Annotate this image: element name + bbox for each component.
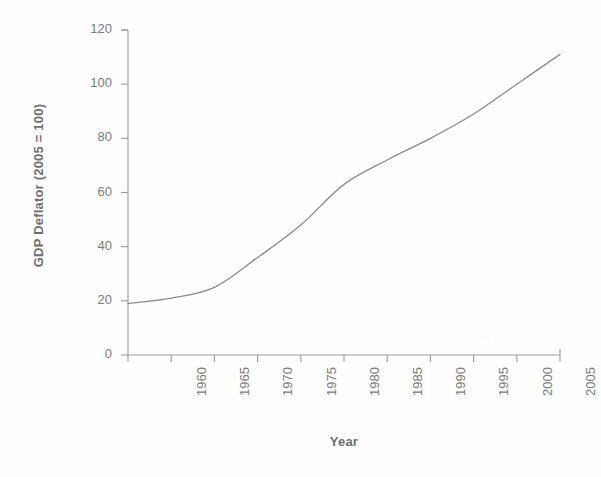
y-axis-tick-label: 100 (56, 75, 112, 90)
y-axis-tick-label: 40 (56, 238, 112, 253)
x-axis-tick-label: 1995 (496, 367, 511, 427)
x-axis-tick-label: 1980 (367, 367, 382, 427)
y-axis-tick-label: 60 (56, 184, 112, 199)
x-axis-tick-label: 1990 (453, 367, 468, 427)
y-axis-title: GDP Deflator (2005 = 100) (31, 76, 46, 296)
y-axis-tick-label: 120 (56, 21, 112, 36)
y-axis-tick-label: 0 (56, 346, 112, 361)
x-axis-tick-label: 1960 (194, 367, 209, 427)
x-axis-ticks (128, 355, 560, 362)
x-axis-title: Year (128, 434, 560, 449)
x-axis-tick-label: 2005 (583, 367, 598, 427)
chart-figure: 020406080100120 196019651970197519801985… (0, 0, 601, 477)
x-axis-tick-label: 2000 (540, 367, 555, 427)
x-axis-tick-label: 1985 (410, 367, 425, 427)
x-axis-tick-label: 1965 (237, 367, 252, 427)
y-axis-tick-label: 80 (56, 129, 112, 144)
y-axis-ticks (121, 30, 128, 355)
x-axis-tick-label: 1970 (280, 367, 295, 427)
data-series-line (128, 54, 560, 303)
x-axis-tick-label: 1975 (324, 367, 339, 427)
y-axis-tick-label: 20 (56, 292, 112, 307)
